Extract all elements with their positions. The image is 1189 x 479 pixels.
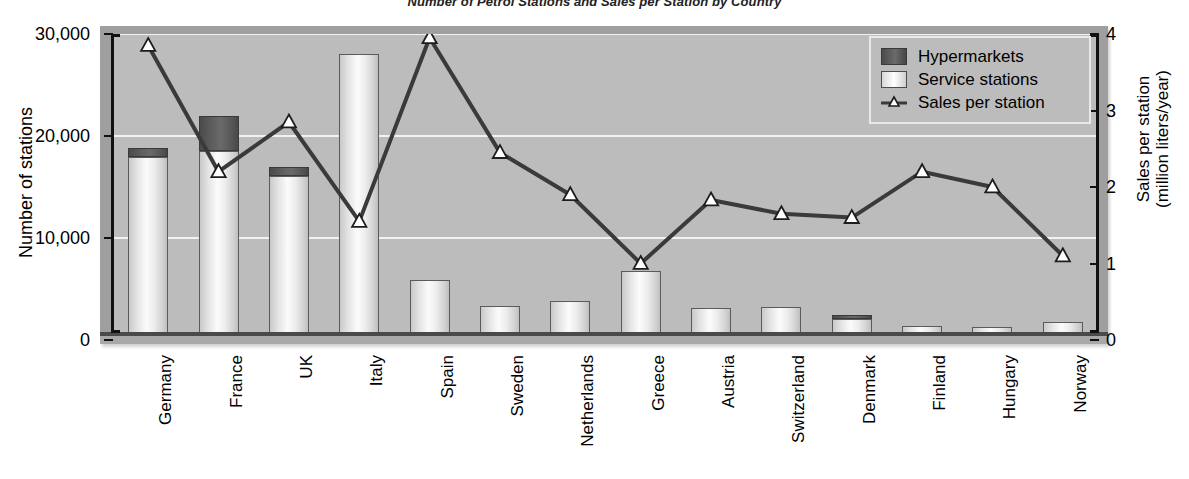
legend-item-hypermarkets[interactable]: Hypermarkets xyxy=(881,45,1081,68)
bar-sweden xyxy=(480,306,520,334)
legend-label-sales-per-station: Sales per station xyxy=(918,93,1045,113)
bar-segment-hypermarkets xyxy=(269,167,309,176)
y-axis-right-spine xyxy=(1096,34,1099,333)
bar-uk xyxy=(269,167,309,334)
line-marker-netherlands xyxy=(563,187,577,200)
y-tick-label-left: 20,000 xyxy=(0,126,90,147)
legend-item-service-stations[interactable]: Service stations xyxy=(881,68,1081,91)
y-tick-mark-right xyxy=(1090,263,1099,265)
spine-cap-bottom xyxy=(1090,330,1099,333)
y-tick-label-right: 4 xyxy=(1106,24,1146,45)
x-axis-label-greece: Greece xyxy=(649,355,669,411)
line-marker-greece xyxy=(634,256,648,269)
x-axis-label-germany: Germany xyxy=(156,355,176,425)
line-marker-denmark xyxy=(845,210,859,223)
x-axis-label-italy: Italy xyxy=(367,355,387,386)
bar-segment-hypermarkets xyxy=(832,315,872,319)
bar-segment-service-stations xyxy=(621,271,661,334)
bar-segment-hypermarkets xyxy=(199,116,239,152)
bar-switzerland xyxy=(761,307,801,334)
bar-segment-service-stations xyxy=(480,306,520,334)
line-marker-switzerland xyxy=(774,206,788,219)
chart-legend: Hypermarkets Service stations Sales per … xyxy=(869,36,1091,124)
x-axis-label-denmark: Denmark xyxy=(860,355,880,424)
y-tick-label-right: 2 xyxy=(1106,177,1146,198)
chart-figure: Number of Petrol Stations and Sales per … xyxy=(0,0,1189,479)
x-axis-label-netherlands: Netherlands xyxy=(578,355,598,447)
line-marker-austria xyxy=(704,193,718,206)
y-tick-label-left: 10,000 xyxy=(0,228,90,249)
line-marker-finland xyxy=(915,164,929,177)
line-marker-sweden xyxy=(493,145,507,158)
y-tick-mark-right xyxy=(1090,110,1099,112)
x-axis-label-austria: Austria xyxy=(719,355,739,408)
y-tick-label-right: 0 xyxy=(1106,330,1146,351)
bar-france xyxy=(199,116,239,334)
y-tick-mark-left xyxy=(104,33,113,35)
y-axis-left-title: Number of stations xyxy=(16,53,37,313)
y-tick-label-left: 0 xyxy=(0,330,90,351)
gridline xyxy=(113,135,1098,137)
gridline xyxy=(113,34,1098,35)
y-axis-right-title: Sales per station (million liters/year) xyxy=(1134,24,1172,254)
hypermarkets-swatch-icon xyxy=(881,48,907,65)
y-tick-label-right: 1 xyxy=(1106,253,1146,274)
y-axis-right-title-line2: (million liters/year) xyxy=(1153,24,1172,254)
y-axis-left-spine xyxy=(111,34,114,333)
x-axis-label-norway: Norway xyxy=(1071,355,1091,413)
legend-label-hypermarkets: Hypermarkets xyxy=(918,47,1024,67)
service-stations-swatch-icon xyxy=(881,71,907,88)
line-marker-germany xyxy=(141,38,155,51)
line-marker-spain xyxy=(423,34,437,43)
bar-netherlands xyxy=(550,301,590,334)
bar-segment-service-stations xyxy=(269,176,309,334)
bar-germany xyxy=(128,148,168,334)
x-axis-label-hungary: Hungary xyxy=(1000,355,1020,419)
bar-segment-service-stations xyxy=(128,157,168,334)
sales-line-swatch-icon xyxy=(881,94,907,111)
x-axis-label-finland: Finland xyxy=(930,355,950,411)
y-tick-mark-right xyxy=(1090,33,1099,35)
x-axis-label-france: France xyxy=(227,355,247,408)
line-marker-hungary xyxy=(985,180,999,193)
panel-floor xyxy=(100,336,1108,344)
bar-segment-service-stations xyxy=(761,307,801,334)
x-axis-label-spain: Spain xyxy=(438,355,458,398)
bar-segment-service-stations xyxy=(550,301,590,334)
bar-austria xyxy=(691,308,731,334)
bar-italy xyxy=(339,54,379,334)
gridline xyxy=(113,237,1098,239)
spine-cap-bottom xyxy=(111,330,120,333)
y-tick-mark-right xyxy=(1090,339,1099,341)
y-tick-label-right: 3 xyxy=(1106,100,1146,121)
bar-segment-service-stations xyxy=(410,280,450,334)
x-axis-label-uk: UK xyxy=(297,355,317,379)
line-marker-norway xyxy=(1056,248,1070,261)
bar-spain xyxy=(410,280,450,334)
bar-segment-hypermarkets xyxy=(128,148,168,157)
x-axis-label-switzerland: Switzerland xyxy=(789,355,809,443)
bar-segment-service-stations xyxy=(691,308,731,334)
bar-segment-service-stations xyxy=(339,54,379,334)
x-axis-label-sweden: Sweden xyxy=(508,355,528,416)
y-tick-mark-left xyxy=(104,339,113,341)
bar-segment-service-stations xyxy=(199,151,239,334)
chart-title: Number of Petrol Stations and Sales per … xyxy=(0,0,1189,9)
y-tick-mark-left xyxy=(104,237,113,239)
y-tick-mark-right xyxy=(1090,186,1099,188)
y-tick-label-left: 30,000 xyxy=(0,24,90,45)
y-tick-mark-left xyxy=(104,135,113,137)
bar-greece xyxy=(621,271,661,334)
legend-label-service-stations: Service stations xyxy=(918,70,1038,90)
line-marker-uk xyxy=(282,115,296,128)
legend-item-sales-per-station[interactable]: Sales per station xyxy=(881,91,1081,114)
